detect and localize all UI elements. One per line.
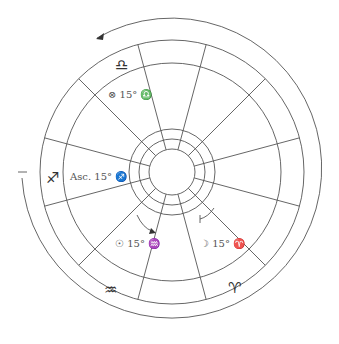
inner-arrow-sun [137,215,152,231]
house-spoke [79,188,156,265]
sagittarius-icon: ♐ [46,169,59,187]
fortune-label: ⊗ 15° ♎ [108,88,152,101]
astrological-chart-wheel: ♎ ♐ ♒ ♈ ⊗ 15° ♎ Asc. 15° ♐ ☉ 15° ♒ ☽ 15°… [0,0,339,344]
inner-arrow-moon [200,208,214,219]
aquarius-icon: ♒ [104,281,117,299]
placements: ⊗ 15° ♎ Asc. 15° ♐ ☉ 15° ♒ ☽ 15° ♈ [69,88,245,250]
moon-label: ☽ 15° ♈ [200,237,245,250]
house-spoke [188,79,265,156]
center-hole-circle [149,149,195,195]
house-spoke [188,188,265,265]
inner-arrowhead-icon [149,228,156,234]
ascendant-label: Asc. 15° ♐ [69,170,127,183]
outer-arrowhead-icon [96,33,104,40]
aries-icon: ♈ [228,279,241,297]
sun-label: ☉ 15° ♒ [115,237,160,250]
libra-icon: ♎ [115,56,128,74]
